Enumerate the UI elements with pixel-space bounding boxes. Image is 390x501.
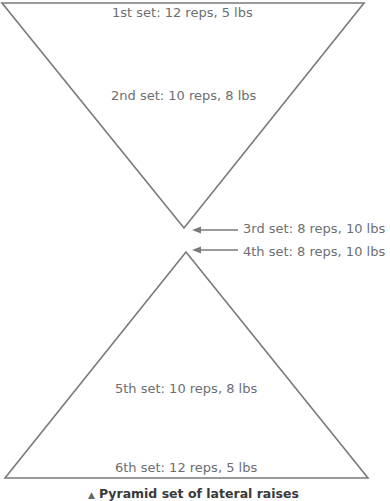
figure-caption: ▲Pyramid set of lateral raises xyxy=(88,486,299,501)
set-3-label: 3rd set: 8 reps, 10 lbs xyxy=(243,221,385,236)
set-4-label: 4th set: 8 reps, 10 lbs xyxy=(243,244,385,259)
caption-text: Pyramid set of lateral raises xyxy=(99,486,299,501)
arrow-to-4th-set xyxy=(192,247,238,254)
set-5-label: 5th set: 10 reps, 8 lbs xyxy=(115,381,257,396)
set-6-label: 6th set: 12 reps, 5 lbs xyxy=(115,460,257,475)
inverted-triangle xyxy=(2,3,364,228)
upright-triangle xyxy=(5,252,368,478)
set-2-label: 2nd set: 10 reps, 8 lbs xyxy=(111,88,256,103)
set-1-label: 1st set: 12 reps, 5 lbs xyxy=(112,5,253,20)
triangle-marker-icon: ▲ xyxy=(88,490,95,500)
arrow-to-3rd-set xyxy=(192,227,238,234)
